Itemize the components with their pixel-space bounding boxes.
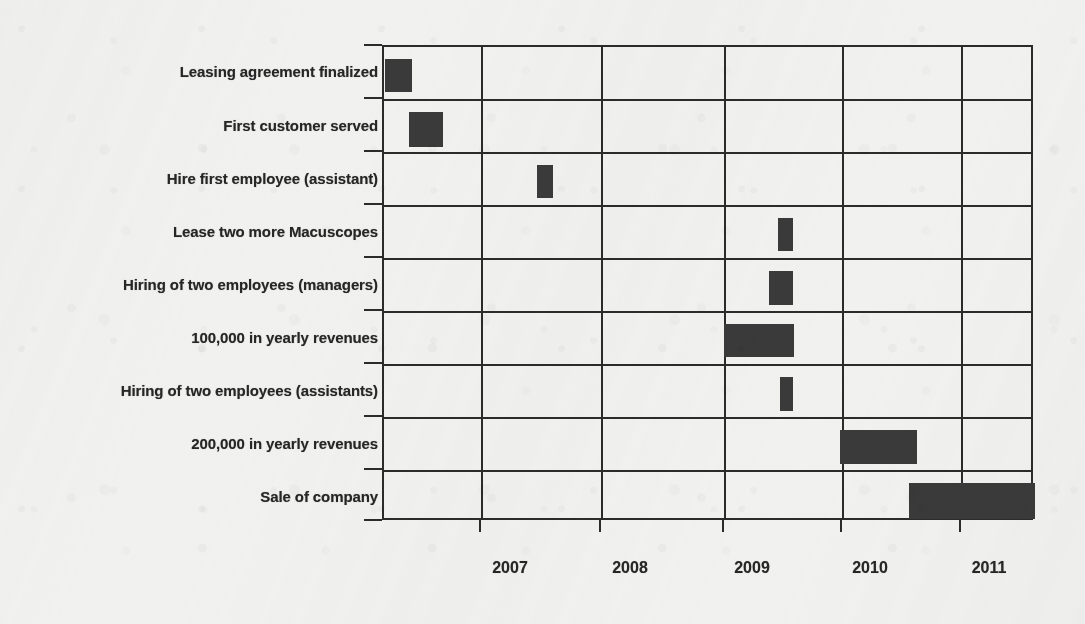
- y-tick-stub: [364, 97, 382, 99]
- x-tick-label-2009: 2009: [734, 560, 770, 576]
- y-tick-stub: [364, 415, 382, 417]
- gantt-bar-first-customer-served[interactable]: [409, 112, 443, 147]
- row-separator: [384, 470, 1031, 472]
- row-label-200000-yearly-revenues: 200,000 in yearly revenues: [191, 436, 378, 451]
- x-tick-label-2007: 2007: [492, 560, 528, 576]
- gridline-2007: [481, 47, 483, 518]
- y-tick-stub: [364, 256, 382, 258]
- row-label-leasing-agreement-finalized: Leasing agreement finalized: [180, 64, 378, 79]
- gantt-bar-lease-two-more-macuscopes[interactable]: [778, 218, 793, 251]
- gantt-bar-hiring-two-employees-assistants[interactable]: [780, 377, 793, 411]
- row-separator: [384, 364, 1031, 366]
- y-tick-stub: [364, 519, 382, 521]
- row-separator: [384, 417, 1031, 419]
- row-label-100000-yearly-revenues: 100,000 in yearly revenues: [191, 330, 378, 345]
- y-tick-stub: [364, 362, 382, 364]
- row-label-first-customer-served: First customer served: [223, 118, 378, 133]
- y-tick-stub: [364, 150, 382, 152]
- gantt-bar-hiring-two-employees-managers[interactable]: [769, 271, 793, 305]
- row-label-hiring-two-employees-managers: Hiring of two employees (managers): [123, 277, 378, 292]
- y-tick-stub: [364, 309, 382, 311]
- x-tick-2011: [959, 520, 961, 532]
- x-tick-label-2011: 2011: [972, 560, 1007, 576]
- gantt-bar-leasing-agreement-finalized[interactable]: [385, 59, 412, 92]
- gantt-bar-100000-yearly-revenues[interactable]: [724, 324, 794, 357]
- x-tick-2007: [479, 520, 481, 532]
- row-label-hire-first-employee-assistant: Hire first employee (assistant): [167, 171, 378, 186]
- y-tick-stub: [364, 44, 382, 46]
- gantt-bar-hire-first-employee-assistant[interactable]: [537, 165, 553, 198]
- gantt-chart: Leasing agreement finalized First custom…: [0, 0, 1085, 624]
- y-tick-stub: [364, 203, 382, 205]
- gridline-2008: [601, 47, 603, 518]
- row-separator: [384, 311, 1031, 313]
- x-tick-2009: [722, 520, 724, 532]
- gridline-2009: [724, 47, 726, 518]
- x-tick-2008: [599, 520, 601, 532]
- x-tick-2010: [840, 520, 842, 532]
- row-label-lease-two-more-macuscopes: Lease two more Macuscopes: [173, 224, 378, 239]
- gantt-bar-200000-yearly-revenues[interactable]: [840, 430, 917, 464]
- row-label-hiring-two-employees-assistants: Hiring of two employees (assistants): [121, 383, 378, 398]
- y-tick-stub: [364, 468, 382, 470]
- row-separator: [384, 258, 1031, 260]
- gridline-2011: [961, 47, 963, 518]
- row-label-sale-of-company: Sale of company: [260, 489, 378, 504]
- x-tick-label-2010: 2010: [852, 560, 888, 576]
- plot-area: [382, 45, 1033, 520]
- row-separator: [384, 205, 1031, 207]
- x-tick-label-2008: 2008: [612, 560, 648, 576]
- row-separator: [384, 99, 1031, 101]
- row-separator: [384, 152, 1031, 154]
- gantt-bar-sale-of-company[interactable]: [909, 483, 1035, 519]
